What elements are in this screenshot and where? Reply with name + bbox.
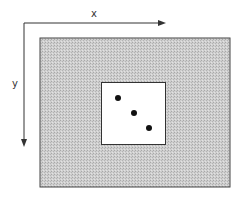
point-2 [131,110,137,116]
y-axis-label: y [12,78,18,89]
x-axis [24,20,166,26]
point-1 [115,95,121,101]
y-axis [21,23,27,147]
x-axis-label: x [91,8,97,19]
diagram-canvas [0,0,242,198]
y-arrow-icon [21,139,27,147]
point-3 [146,125,152,131]
x-arrow-icon [158,20,166,26]
